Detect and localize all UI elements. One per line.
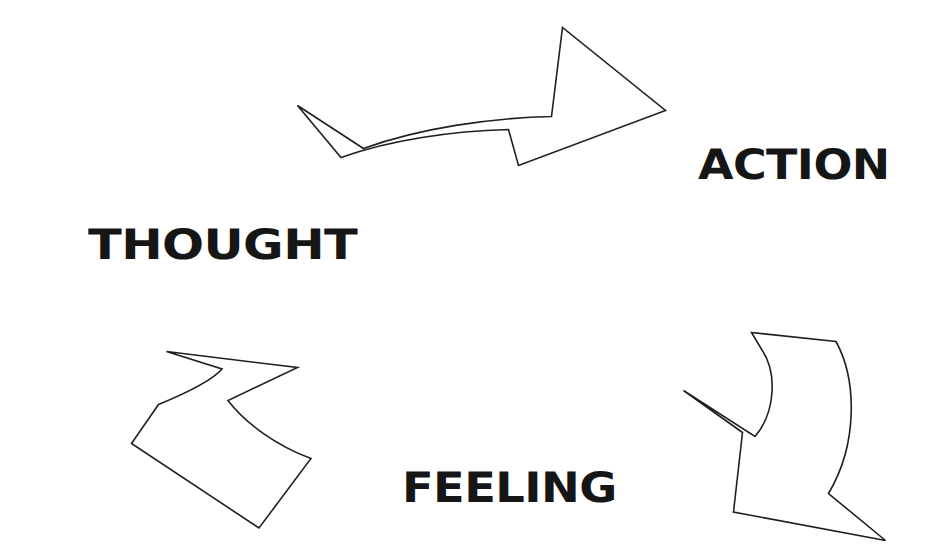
label-feeling: FEELING [402, 467, 617, 509]
arrow-thought-to-action [298, 28, 666, 166]
cycle-diagram: THOUGHT ACTION FEELING [0, 0, 933, 559]
arrow-feeling-to-thought [132, 352, 312, 529]
arrow-action-to-feeling [684, 333, 886, 541]
label-action: ACTION [698, 144, 890, 186]
label-thought: THOUGHT [88, 224, 357, 266]
